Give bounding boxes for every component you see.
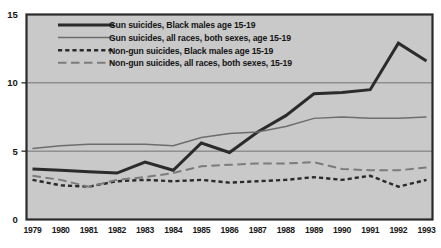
x-tick-label-1990: 1990 [333, 225, 351, 235]
x-tick-label-1981: 1981 [80, 225, 98, 235]
x-tick-label-1982: 1982 [108, 225, 126, 235]
x-tick-label-1984: 1984 [164, 225, 182, 235]
legend-label-0: Gun suicides, Black males age 15-19 [109, 20, 256, 30]
legend-label-3: Non-gun suicides, all races, both sexes,… [109, 58, 292, 68]
y-tick-label-10: 10 [7, 77, 17, 88]
y-axis: 051015 [7, 9, 26, 225]
y-tick-label-15: 15 [7, 9, 18, 20]
x-tick-label-1987: 1987 [249, 225, 267, 235]
suicide-rate-line-chart: Gun suicides, Black males age 15-19Gun s… [0, 0, 441, 248]
x-tick-label-1986: 1986 [221, 225, 239, 235]
x-tick-label-1985: 1985 [192, 225, 210, 235]
legend-label-1: Gun suicides, all races, both sexes, age… [109, 33, 291, 43]
y-tick-label-0: 0 [12, 214, 17, 225]
x-tick-label-1983: 1983 [136, 225, 154, 235]
x-tick-label-1980: 1980 [52, 225, 70, 235]
x-axis: 1979198019811982198319841985198619871988… [24, 225, 436, 235]
x-tick-label-1989: 1989 [305, 225, 323, 235]
x-tick-label-1988: 1988 [277, 225, 295, 235]
y-tick-label-5: 5 [12, 146, 18, 157]
chart-canvas: Gun suicides, Black males age 15-19Gun s… [0, 0, 441, 248]
x-tick-label-1979: 1979 [24, 225, 42, 235]
x-tick-label-1991: 1991 [361, 225, 379, 235]
legend-label-2: Non-gun suicides, Black males age 15-19 [109, 46, 273, 56]
x-tick-label-1992: 1992 [389, 225, 407, 235]
x-tick-label-1993: 1993 [418, 225, 436, 235]
